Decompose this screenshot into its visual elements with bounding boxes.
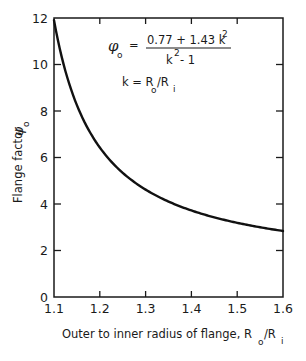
x-tick-label: 1.5: [227, 301, 247, 316]
formula-denominator-k: k: [166, 53, 173, 67]
x-tick-label: 1.4: [181, 301, 201, 316]
x-tick-label: 1.2: [90, 301, 110, 316]
k-definition: k = R: [122, 75, 154, 89]
formula-phi-sub: o: [117, 50, 123, 60]
y-axis-title: Flange factor φ o: [11, 121, 31, 203]
formula-numerator: 0.77 + 1.43 k: [147, 33, 226, 47]
x-axis-sub-i: i: [281, 336, 284, 346]
formula-denominator-rest: - 1: [180, 53, 195, 67]
y-tick-label: 6: [40, 150, 48, 165]
y-axis-ticks: 024681012: [32, 11, 283, 305]
y-tick-label: 2: [40, 243, 48, 258]
y-tick-label: 12: [32, 11, 48, 26]
x-axis-title: Outer to inner radius of flange, R o /R …: [62, 327, 284, 347]
y-axis-phi-sub: o: [21, 121, 31, 127]
x-axis-slash: /R: [264, 327, 276, 341]
y-tick-label: 4: [40, 197, 48, 212]
y-axis-title-text: Flange factor: [11, 127, 25, 203]
y-tick-label: 0: [40, 290, 48, 305]
x-tick-label: 1.3: [136, 301, 156, 316]
formula-den-exponent: 2: [174, 48, 180, 58]
formula-num-exponent: 2: [222, 29, 228, 39]
x-axis-title-text: Outer to inner radius of flange, R: [62, 327, 252, 341]
y-tick-label: 10: [32, 57, 48, 72]
x-tick-label: 1.6: [273, 301, 293, 316]
k-def-sub-i: i: [173, 84, 176, 94]
k-def-slash: /R: [157, 75, 169, 89]
flange-factor-curve: [54, 20, 283, 231]
y-tick-label: 8: [40, 104, 48, 119]
formula-annotation: φ o = 0.77 + 1.43 k 2 k 2 - 1 k = R o /R…: [108, 29, 231, 95]
formula-equals: =: [129, 38, 139, 52]
flange-factor-chart: 1.11.21.31.41.51.6 024681012 φ o = 0.77 …: [0, 0, 306, 361]
